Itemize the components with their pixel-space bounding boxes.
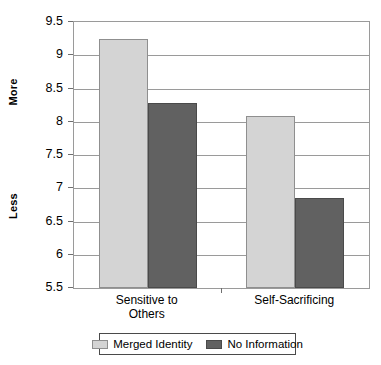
y-tick-label: 8.5 <box>18 82 68 94</box>
x-axis-label: Self-Sacrificing <box>221 293 369 307</box>
legend-label: No Information <box>227 338 302 350</box>
legend-item: Merged Identity <box>92 338 192 350</box>
y-tick-label: 7.5 <box>18 148 68 160</box>
bar-chart: More Less 5.566.577.588.599.5 Sensitive … <box>0 0 381 365</box>
legend-label: Merged Identity <box>113 338 192 350</box>
y-tick-label: 5.5 <box>18 281 68 293</box>
y-tick-label: 8 <box>18 115 68 127</box>
y-tick-mark <box>68 88 73 89</box>
x-axis-category-labels: Sensitive to OthersSelf-Sacrificing <box>73 293 368 327</box>
y-tick-mark <box>68 221 73 222</box>
y-tick-mark <box>68 154 73 155</box>
legend-swatch-icon <box>206 340 222 349</box>
y-tick-label: 7 <box>18 181 68 193</box>
y-tick-mark <box>68 54 73 55</box>
y-tick-mark <box>68 21 73 22</box>
chart-legend: Merged IdentityNo Information <box>99 333 296 355</box>
y-tick-mark <box>68 121 73 122</box>
legend-item: No Information <box>206 338 302 350</box>
y-tick-mark <box>68 187 73 188</box>
y-axis-tick-marks <box>73 21 368 287</box>
x-axis-label: Sensitive to Others <box>73 293 221 321</box>
y-tick-label: 6 <box>18 248 68 260</box>
y-tick-label: 9 <box>18 48 68 60</box>
y-tick-label: 9.5 <box>18 15 68 27</box>
y-tick-mark <box>68 254 73 255</box>
legend-swatch-icon <box>92 340 108 349</box>
y-axis-tick-labels: 5.566.577.588.599.5 <box>18 0 68 365</box>
y-tick-label: 6.5 <box>18 215 68 227</box>
